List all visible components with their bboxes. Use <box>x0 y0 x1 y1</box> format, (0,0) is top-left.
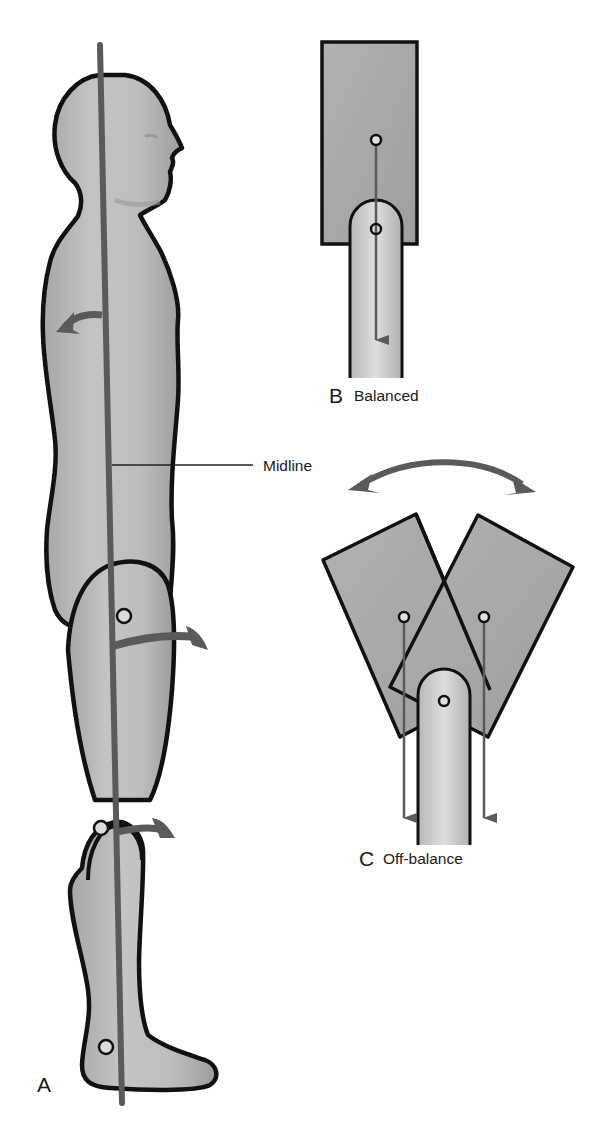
panel-a-letter: A <box>37 1073 51 1096</box>
center-of-gravity <box>479 612 489 622</box>
double-curved-arrow-icon <box>348 462 536 495</box>
circle-icon <box>117 609 131 623</box>
panel-b-caption: Balanced <box>354 387 419 404</box>
panel-b-letter: B <box>329 384 343 407</box>
midline-label: Midline <box>263 457 312 474</box>
panel-c-off-balance: C Off-balance <box>323 462 573 870</box>
pivot-point <box>439 696 449 706</box>
panel-a-figure: Midline A <box>37 45 312 1103</box>
balance-figure: Midline A B Balanced <box>0 0 609 1127</box>
panel-c-caption: Off-balance <box>383 850 463 867</box>
lower-leg-segment <box>70 822 216 1090</box>
circle-icon <box>99 1040 113 1054</box>
panel-c-letter: C <box>359 847 374 870</box>
center-of-gravity <box>371 135 381 145</box>
panel-b-balanced: B Balanced <box>322 42 419 407</box>
circle-icon <box>94 821 108 835</box>
center-of-gravity <box>399 612 409 622</box>
thigh-segment <box>68 562 174 800</box>
